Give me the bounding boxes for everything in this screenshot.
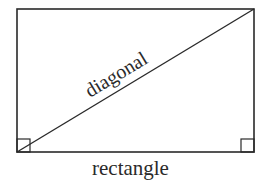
diagonal-line [17, 9, 254, 152]
diagonal-label: diagonal [81, 47, 152, 102]
rectangle-diagram: diagonal rectangle [0, 0, 276, 190]
right-angle-marker-bottom-right [241, 139, 254, 152]
shape-name-label: rectangle [92, 156, 169, 180]
